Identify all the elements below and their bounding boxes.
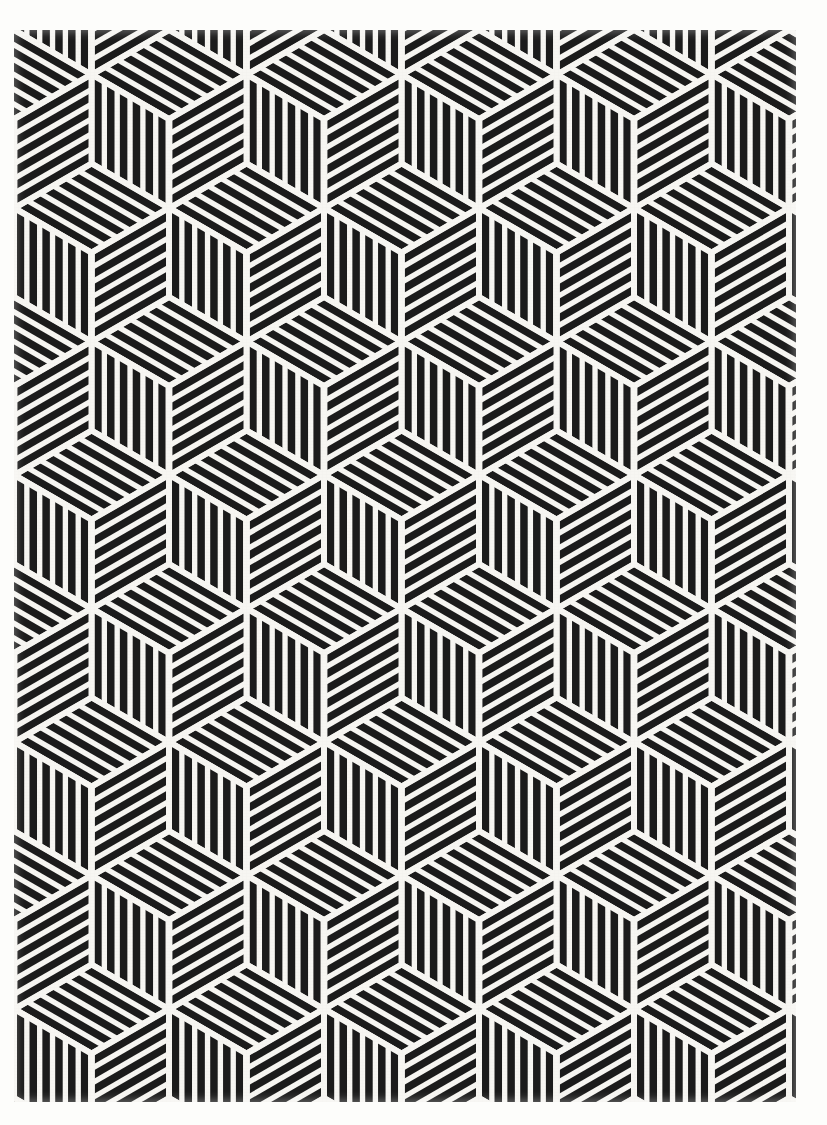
pattern-artboard	[14, 30, 796, 1102]
hexagon-tessellation-svg	[14, 30, 796, 1102]
artwork-page	[0, 0, 827, 1125]
